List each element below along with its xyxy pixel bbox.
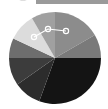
pie-graphic	[0, 0, 108, 109]
